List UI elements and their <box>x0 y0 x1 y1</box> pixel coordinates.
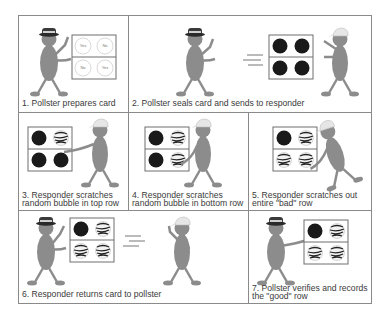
step-caption: 5. Responder scratches out entire "bad" … <box>252 191 357 208</box>
bubble-label: No <box>98 43 112 48</box>
panel-step-3: 3. Responder scratches random bubble in … <box>18 112 128 210</box>
bubble-label: Yes <box>98 65 112 70</box>
panel-step-1: Yes No No Yes 1. Pollster prepares card <box>18 15 128 112</box>
panel-step-5: 5. Responder scratches out entire "bad" … <box>248 112 372 210</box>
step-caption: 7. Pollster verifies and records the "go… <box>252 284 368 301</box>
step-caption: 6. Responder returns card to pollster <box>22 290 161 298</box>
step-caption: 2. Pollster seals card and sends to resp… <box>132 99 304 107</box>
step-caption: 1. Pollster prepares card <box>22 99 116 107</box>
scratch-card <box>304 220 350 266</box>
step-caption: 4. Responder scratches random bubble in … <box>132 191 243 208</box>
panel-step-7: 7. Pollster verifies and records the "go… <box>248 210 372 304</box>
panel-step-6: 6. Responder returns card to pollster <box>18 210 248 304</box>
panel-step-2: 2. Pollster seals card and sends to resp… <box>128 15 372 112</box>
answer-card <box>72 35 118 81</box>
bubble-label: No <box>76 65 90 70</box>
step-caption: 3. Responder scratches random bubble in … <box>22 191 119 208</box>
panel-step-4: 4. Responder scratches random bubble in … <box>128 112 248 210</box>
bubble-label: Yes <box>76 43 90 48</box>
